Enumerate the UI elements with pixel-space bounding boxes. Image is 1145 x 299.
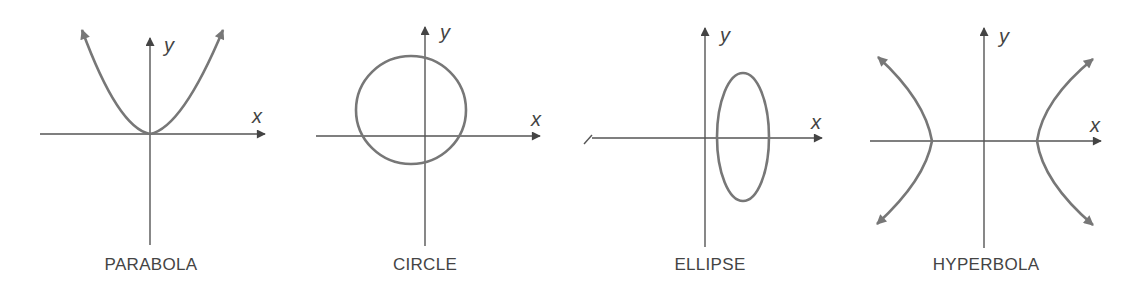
parabola-figure: y x	[40, 30, 265, 245]
hyperbola-figure: y x	[870, 25, 1101, 248]
x-axis-label: x	[530, 108, 542, 130]
parabola-left-arm	[82, 30, 150, 134]
axis-tick-mark	[584, 135, 592, 144]
y-axis-label: y	[162, 34, 175, 56]
hyperbola-right-lower-arm	[1037, 141, 1093, 225]
hyperbola-left-upper-arm	[878, 57, 932, 141]
y-axis-label: y	[997, 25, 1010, 47]
circle-caption: CIRCLE	[393, 255, 457, 275]
x-axis-label: x	[251, 105, 263, 127]
parabola-right-arm	[150, 30, 223, 134]
circle-curve	[356, 56, 466, 164]
x-axis-label: x	[810, 111, 822, 133]
ellipse-figure: y x	[584, 24, 822, 247]
ellipse-curve	[717, 73, 769, 201]
parabola-caption: PARABOLA	[105, 255, 198, 275]
ellipse-caption: ELLIPSE	[674, 255, 745, 275]
y-axis-label: y	[718, 24, 731, 46]
y-axis-label: y	[438, 21, 451, 43]
x-axis-label: x	[1089, 114, 1101, 136]
circle-figure: y x	[316, 21, 542, 246]
hyperbola-right-upper-arm	[1037, 59, 1093, 141]
hyperbola-left-lower-arm	[877, 141, 932, 224]
hyperbola-caption: HYPERBOLA	[933, 255, 1040, 275]
